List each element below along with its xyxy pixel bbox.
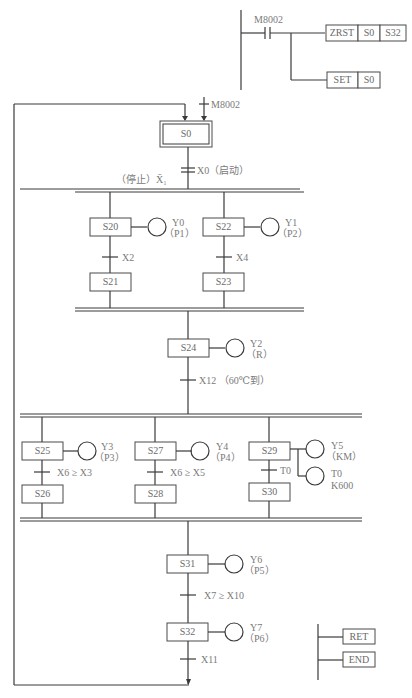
stop-label: （停止）X̄₁ <box>116 174 167 185</box>
output-y3: Y3 <box>101 441 113 452</box>
m8002-contact-label: M8002 <box>254 14 283 25</box>
output-y3-sub: （P3） <box>94 452 125 463</box>
step-s26: S26 <box>22 488 63 500</box>
step-s22: S22 <box>203 221 244 233</box>
output-y7-sub: （P6） <box>244 633 275 644</box>
output-y0-sub: （P1） <box>164 228 195 239</box>
step-s21: S21 <box>90 276 131 288</box>
transition-x4: X4 <box>236 252 248 263</box>
step-s30: S30 <box>249 486 290 498</box>
output-y5: Y5 <box>331 440 343 451</box>
output-y2-sub: （R） <box>246 349 273 360</box>
step-s29: S29 <box>249 445 290 457</box>
step-s0: S0 <box>163 128 209 140</box>
transition-x2: X2 <box>122 252 134 263</box>
output-y1-sub: （P2） <box>277 228 308 239</box>
output-t0: T0 <box>331 468 342 479</box>
set-arg: S0 <box>358 74 380 86</box>
transition-x0: X0（启动） <box>197 165 249 176</box>
output-y7: Y7 <box>250 622 262 633</box>
output-y4-sub: （P4） <box>210 452 241 463</box>
m8002-trigger-label: M8002 <box>211 99 240 110</box>
end-instruction: END <box>343 654 375 666</box>
step-s31: S31 <box>167 558 208 570</box>
step-s28: S28 <box>135 488 176 500</box>
step-s20: S20 <box>90 221 131 233</box>
zrst-arg-1: S0 <box>358 27 380 39</box>
transition-x11: X11 <box>201 654 218 665</box>
set-op: SET <box>327 74 358 86</box>
output-y6-sub: （P5） <box>244 565 275 576</box>
output-y0: Y0 <box>172 217 184 228</box>
transition-x6-x3: X6 ≥ X3 <box>57 467 92 478</box>
transition-x12: X12 （60℃到） <box>199 375 270 386</box>
transition-t0: T0 <box>280 465 291 476</box>
output-t0-k600: K600 <box>331 480 353 491</box>
transition-x6-x5: X6 ≥ X5 <box>170 467 205 478</box>
step-s25: S25 <box>22 445 63 457</box>
output-y4: Y4 <box>216 441 228 452</box>
step-s23: S23 <box>203 276 244 288</box>
zrst-arg-2: S32 <box>380 27 406 39</box>
output-y6: Y6 <box>250 554 262 565</box>
step-s32: S32 <box>167 626 208 638</box>
step-s24: S24 <box>168 342 209 354</box>
output-y2: Y2 <box>250 338 262 349</box>
ret-instruction: RET <box>343 631 375 643</box>
output-y1: Y1 <box>285 217 297 228</box>
zrst-op: ZRST <box>326 27 358 39</box>
output-y5-sub: （KM） <box>326 451 362 462</box>
step-s27: S27 <box>135 445 176 457</box>
transition-x7-x10: X7 ≥ X10 <box>204 590 244 601</box>
sfc-diagram: M8002 ZRST S0 S32 SET S0 M8002 S0 X0（启动）… <box>0 0 412 698</box>
